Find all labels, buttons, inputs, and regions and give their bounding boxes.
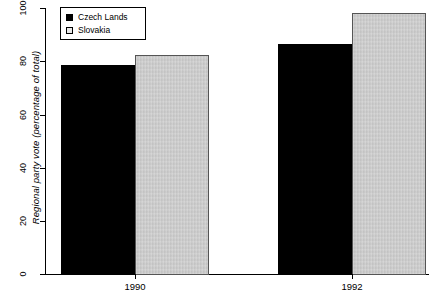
x-tick-1992 [352,274,353,279]
legend-item-slovakia: Slovakia [66,24,141,37]
y-tick-20 [40,221,46,222]
y-tick-label-20-wrap: 20 [10,215,36,227]
bar-1990-czech-lands [61,65,135,275]
y-tick-80 [40,61,46,62]
y-tick-label-60: 60 [18,110,28,120]
legend-item-czech-lands: Czech Lands [66,11,141,24]
y-tick-label-100: 100 [18,0,28,15]
x-tick-1990 [135,274,136,279]
y-tick-label-60-wrap: 60 [10,109,36,121]
y-tick-label-40-wrap: 40 [10,162,36,174]
y-axis-line [45,8,46,275]
x-axis-label-1990: 1990 [95,281,175,292]
y-tick-label-80: 80 [18,56,28,66]
y-tick-label-0-wrap: 0 [10,268,36,280]
y-tick-label-0: 0 [18,271,28,276]
y-tick-100 [40,8,46,9]
grey-square-icon [66,27,73,34]
x-axis-label-1992: 1992 [312,281,392,292]
legend-label-slovakia: Slovakia [78,26,110,35]
black-square-icon [66,14,73,21]
y-tick-0 [40,274,46,275]
y-tick-label-20: 20 [18,216,28,226]
bar-chart: Regional party vote (percentage of total… [0,0,430,297]
legend-label-czech-lands: Czech Lands [78,13,128,22]
y-tick-40 [40,168,46,169]
bar-1990-slovakia [135,55,209,275]
y-tick-60 [40,115,46,116]
y-tick-label-40: 40 [18,163,28,173]
y-tick-label-80-wrap: 80 [10,55,36,67]
bar-1992-slovakia [352,13,426,275]
y-tick-label-100-wrap: 100 [10,2,36,14]
bar-1992-czech-lands [278,44,352,275]
legend: Czech Lands Slovakia [60,7,146,40]
